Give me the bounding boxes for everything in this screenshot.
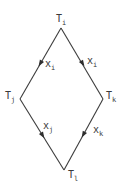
diamond-diagram: Ti Tj Tk Tl xi xi xj xk	[0, 0, 122, 193]
node-label-bottom: Tl	[68, 169, 78, 183]
edge-label-left-bottom: xj	[43, 120, 53, 134]
arrow-down-right-icon	[39, 132, 45, 139]
node-label-top: Ti	[56, 13, 66, 27]
edge-label-top-left: xi	[45, 58, 55, 72]
node-label-left: Tj	[5, 90, 15, 104]
arrow-down-left-icon	[39, 60, 44, 67]
node-label-right: Tk	[106, 90, 117, 104]
edge-label-top-right: xi	[87, 55, 97, 69]
edge-label-right-bottom: xk	[93, 124, 104, 138]
arrow-down-left-icon	[82, 131, 87, 138]
